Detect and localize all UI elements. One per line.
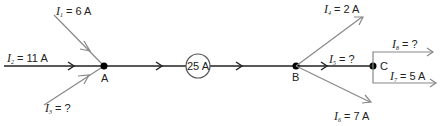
- label-i6: I6 = 7 A: [333, 109, 370, 123]
- circuit-diagram: 25 A A B C I1 = 6 A I2 = 11 A I3 = ? I4 …: [0, 0, 441, 126]
- wire-i6: [296, 66, 370, 102]
- label-i5: I5 = ?: [328, 52, 355, 66]
- node-a-label: A: [101, 72, 109, 84]
- ammeter-label: 25 A: [187, 60, 210, 72]
- label-i7: I7 = 5 A: [389, 69, 426, 83]
- label-i8: I8 = ?: [391, 37, 418, 51]
- node-b-label: B: [292, 71, 299, 83]
- wire-i1: [54, 15, 104, 66]
- label-i4: I4 = 2 A: [323, 2, 360, 16]
- label-i1: I1 = 6 A: [55, 4, 92, 18]
- label-i2: I2 = 11 A: [6, 51, 48, 65]
- node-a: [101, 63, 108, 70]
- label-i3: I3 = ?: [44, 101, 71, 115]
- node-c-label: C: [380, 60, 388, 72]
- wire-i3: [44, 66, 104, 105]
- arrow-i4: [354, 17, 363, 25]
